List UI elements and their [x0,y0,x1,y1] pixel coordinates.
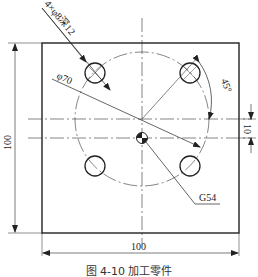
width-label: 100 [131,241,146,252]
part-drawing: 4×φ8深12 φ70 45° 10 100 100 G54 [0,0,258,262]
bolt-circle-label: φ70 [55,70,74,87]
figure-caption: 图 4-10 加工零件 [0,262,258,277]
offset-label: 10 [242,124,253,134]
hole-note-label: 4×φ8深12 [42,0,77,37]
origin-label: G54 [199,192,216,203]
height-label: 100 [2,135,13,150]
hole-bottom-left [85,156,105,176]
holes [85,63,200,176]
origin-marker [137,133,148,144]
angle-label: 45° [219,77,234,94]
